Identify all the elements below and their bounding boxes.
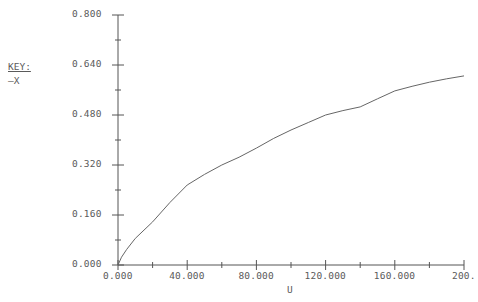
y-tick-label: 0.800 bbox=[72, 8, 102, 19]
y-tick-label: 0.640 bbox=[72, 58, 102, 69]
x-tick-label: 40.000 bbox=[169, 270, 205, 281]
series-x-line bbox=[118, 76, 464, 265]
x-tick-label: 80.000 bbox=[238, 270, 274, 281]
x-tick-label: 0.000 bbox=[103, 270, 133, 281]
legend: KEY: —X bbox=[8, 61, 31, 86]
plot-area bbox=[0, 0, 478, 302]
y-tick-label: 0.320 bbox=[72, 158, 102, 169]
y-tick-label: 0.480 bbox=[72, 108, 102, 119]
legend-title: KEY: bbox=[8, 61, 31, 72]
y-tick-label: 0.160 bbox=[72, 208, 102, 219]
y-tick-label: 0.000 bbox=[72, 258, 102, 269]
x-tick-label: 120.000 bbox=[305, 270, 346, 281]
x-tick-label: 160.000 bbox=[374, 270, 415, 281]
legend-entry-label: X bbox=[14, 75, 20, 86]
x-tick-label: 200. bbox=[452, 270, 476, 281]
x-axis-label: U bbox=[287, 284, 293, 295]
legend-entry-x: —X bbox=[8, 75, 31, 86]
